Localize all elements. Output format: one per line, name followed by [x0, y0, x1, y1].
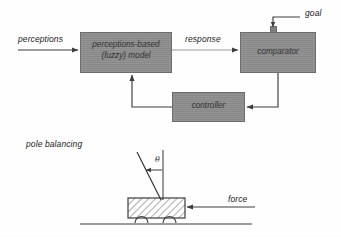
arrow-controller-to-model [132, 75, 172, 107]
cart-body [128, 198, 185, 218]
arrow-goal-input [273, 17, 300, 27]
pole [137, 152, 161, 200]
diagram-lines-overlay [0, 0, 341, 237]
arrow-comparator-to-controller [247, 73, 278, 107]
block-diagram-figure: perceptions-based (fuzzy) model comparat… [0, 0, 341, 237]
